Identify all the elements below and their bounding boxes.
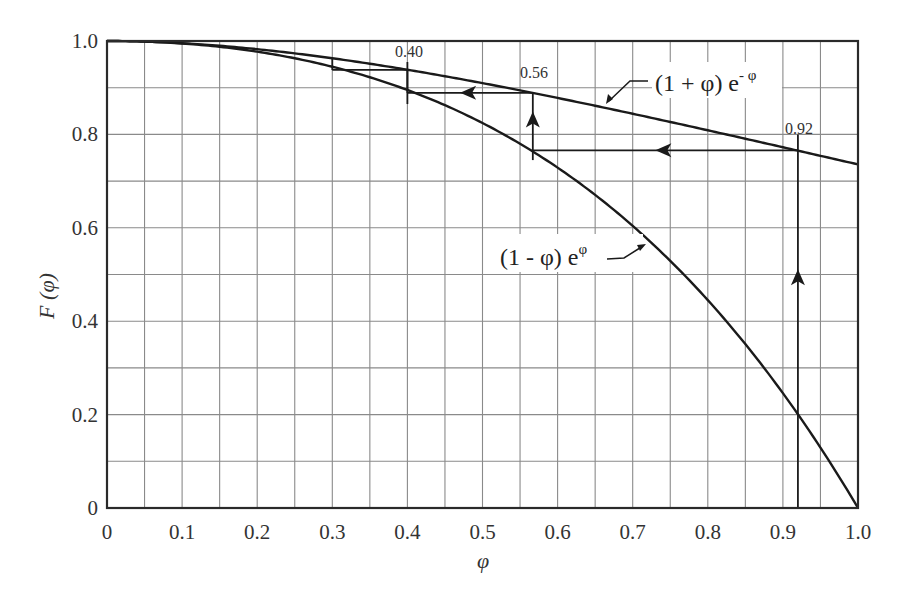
x-tick-label: 0.2 xyxy=(244,520,270,544)
y-tick-labels: 00.20.40.60.81.0 xyxy=(72,29,99,520)
annotation-0-40: 0.40 xyxy=(395,43,423,60)
x-tick-labels: 00.10.20.30.40.50.60.70.80.91.0 xyxy=(102,520,871,544)
x-tick-label: 0.7 xyxy=(620,520,646,544)
chart: 00.10.20.30.40.50.60.70.80.91.0 00.20.40… xyxy=(0,0,907,602)
x-tick-label: 0.5 xyxy=(469,520,495,544)
x-tick-label: 0.3 xyxy=(319,520,345,544)
x-tick-label: 1.0 xyxy=(845,520,871,544)
iteration-path xyxy=(332,58,805,508)
annotation-0-92: 0.92 xyxy=(785,120,813,137)
grid xyxy=(107,41,858,508)
y-axis-label: F (φ) xyxy=(34,273,59,320)
y-tick-label: 0.4 xyxy=(72,309,99,333)
y-tick-label: 1.0 xyxy=(72,29,98,53)
lower-curve-label-sup: φ xyxy=(578,241,587,257)
x-axis-label: φ xyxy=(477,548,489,573)
x-tick-label: 0.4 xyxy=(394,520,421,544)
y-tick-label: 0.6 xyxy=(72,216,98,240)
x-tick-label: 0.9 xyxy=(770,520,796,544)
upper-curve-label-text: (1 + φ) e xyxy=(655,70,739,96)
x-tick-label: 0.1 xyxy=(169,520,195,544)
y-tick-label: 0.2 xyxy=(72,403,98,427)
x-tick-label: 0.8 xyxy=(695,520,721,544)
x-tick-label: 0.6 xyxy=(544,520,570,544)
y-tick-label: 0.8 xyxy=(72,122,98,146)
upper-curve-label-sup: - φ xyxy=(739,67,757,83)
lower-curve-label-text: (1 - φ) e xyxy=(500,244,578,270)
lower-curve-label: (1 - φ) eφ xyxy=(500,241,587,270)
upper-curve-leader-arrow xyxy=(609,81,648,101)
x-tick-label: 0 xyxy=(102,520,113,544)
y-tick-label: 0 xyxy=(88,496,99,520)
annotation-0-56: 0.56 xyxy=(520,64,548,81)
upper-curve-leader-arrowhead xyxy=(606,94,613,104)
